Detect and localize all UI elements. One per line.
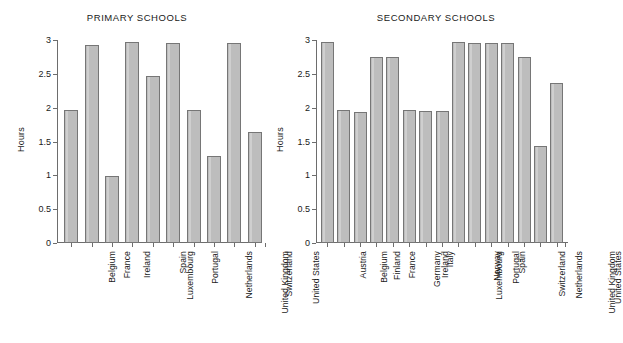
x-axis-label: Spain [517,251,527,273]
y-tick-label: 1 [305,170,310,180]
x-tick [376,243,377,247]
x-tick [327,243,328,247]
y-tick-1 [312,108,316,109]
y-tick-label: 0.5 [297,204,310,214]
bar [501,43,514,243]
bar [337,110,350,243]
x-tick [173,243,174,247]
y-tick-1 [312,74,316,75]
y-tick-0 [53,175,57,176]
y-tick-label: 0 [46,238,51,248]
x-tick [508,243,509,247]
plot-area-secondary: 00.511.522.53AustriaBelgiumFinlandFrance… [316,40,568,243]
y-tick-1 [312,142,316,143]
bar [518,57,531,243]
bar [436,111,449,243]
y-tick-label: 3 [305,35,310,45]
x-tick [393,243,394,247]
y-tick-label: 2 [305,103,310,113]
y-axis-spine-primary [57,40,58,243]
x-axis-label: France [122,251,132,278]
x-axis-label: Austria [358,251,368,278]
x-tick [458,243,459,247]
y-tick-label: 2.5 [297,69,310,79]
bar [485,43,498,243]
x-tick-end [565,243,566,247]
x-tick [153,243,154,247]
bar [125,42,139,243]
x-axis-label: Portugal [209,251,219,284]
bar [403,110,416,243]
y-tick-1 [312,175,316,176]
y-axis-label-secondary: Hours [275,127,285,152]
y-tick-0 [53,108,57,109]
x-tick [71,243,72,247]
chart-panel-primary: PRIMARY SCHOOLS Hours 00.511.522.53Belgi… [0,0,290,343]
x-tick [255,243,256,247]
y-tick-1 [312,243,316,244]
x-tick [540,243,541,247]
bar [386,57,399,243]
bar [370,57,383,243]
y-tick-label: 2 [46,103,51,113]
y-tick-0 [53,142,57,143]
x-tick [442,243,443,247]
y-tick-label: 0 [305,238,310,248]
bar [321,42,334,243]
x-axis-label: Switzerland [557,251,567,297]
y-tick-0 [53,243,57,244]
bar [105,176,119,243]
x-axis-label: Finland [392,251,402,280]
y-axis-label-primary: Hours [16,127,26,152]
x-tick [491,243,492,247]
y-tick-1 [312,40,316,41]
y-tick-label: 1 [46,170,51,180]
y-axis-spine-secondary [316,40,317,243]
chart-panel-secondary: SECONDARY SCHOOLS Hours 00.511.522.53Aus… [258,0,602,343]
bar [187,110,201,243]
x-tick [557,243,558,247]
x-tick [344,243,345,247]
y-tick-label: 1.5 [38,137,51,147]
bar [550,83,563,243]
bar [354,112,367,243]
bar [419,111,432,243]
x-axis-label: Netherlands [575,251,585,298]
y-tick-label: 1.5 [297,137,310,147]
x-tick [426,243,427,247]
bar [468,43,481,243]
y-tick-0 [53,40,57,41]
x-tick [92,243,93,247]
bar [64,110,78,243]
y-tick-0 [53,209,57,210]
x-axis-label: Norway [492,251,502,281]
y-tick-label: 2.5 [38,69,51,79]
y-tick-label: 3 [46,35,51,45]
bar [207,156,221,243]
x-axis-label: Italy [445,251,455,267]
x-axis-label: Netherlands [244,251,254,298]
bar [452,42,465,243]
bar [146,76,160,243]
x-axis-label: France [407,251,417,278]
x-axis-label: Spain [179,251,189,273]
chart-title-secondary: SECONDARY SCHOOLS [264,12,608,23]
chart-title-primary: PRIMARY SCHOOLS [0,12,282,23]
y-tick-1 [312,209,316,210]
x-tick [234,243,235,247]
bar [166,43,180,243]
x-tick [194,243,195,247]
x-tick [112,243,113,247]
plot-area-primary: 00.511.522.53BelgiumFranceIrelandLuxembo… [57,40,262,243]
x-tick [132,243,133,247]
bar [534,146,547,243]
x-axis-label: Belgium [106,251,116,283]
x-axis-label: United States [613,251,623,304]
y-tick-0 [53,74,57,75]
x-axis-label: Ireland [142,251,152,278]
x-tick [409,243,410,247]
y-tick-label: 0.5 [38,204,51,214]
x-axis-label: Belgium [379,251,389,283]
x-tick [214,243,215,247]
